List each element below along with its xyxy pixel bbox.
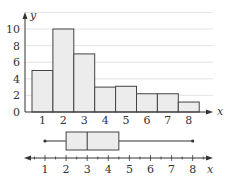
histogram-bar [116, 86, 137, 112]
chart-canvas: y x 0246810 12345678 x 12345678 [0, 0, 236, 185]
histogram-bar [157, 94, 178, 112]
y-tick-labels: 0246810 [6, 23, 20, 119]
histogram-bars [32, 29, 199, 112]
x-tick-label: 5 [123, 114, 130, 127]
y-axis-label: y [29, 9, 37, 22]
number-line-tick-label: 7 [168, 163, 175, 176]
histogram-bar [32, 71, 53, 113]
number-line-x-label: x [207, 163, 214, 176]
y-tick-label: 6 [13, 56, 20, 69]
x-tick-label: 8 [185, 114, 192, 127]
number-line-tick-label: 8 [189, 163, 196, 176]
histogram-bar [74, 54, 95, 112]
y-tick-label: 4 [13, 73, 20, 86]
histogram-bar [95, 87, 116, 112]
y-tick-label: 8 [13, 40, 20, 53]
x-tick-label: 1 [39, 114, 46, 127]
x-tick-label: 7 [164, 114, 171, 127]
histogram-bar [178, 102, 199, 112]
histogram-bar [53, 29, 74, 112]
number-line-right-arrow-icon [206, 156, 213, 161]
box-plot [43, 132, 194, 150]
iqr-box [66, 132, 119, 150]
y-tick-label: 10 [6, 23, 20, 36]
x-axis-arrow-icon [206, 110, 213, 115]
histogram-bar [137, 94, 158, 112]
x-tick-label: 6 [143, 114, 150, 127]
y-tick-label: 0 [13, 106, 20, 119]
number-line-tick-label: 1 [42, 163, 49, 176]
x-tick-labels: 12345678 [39, 114, 192, 127]
number-line-tick-label: 3 [84, 163, 91, 176]
number-line-tick-label: 4 [105, 163, 112, 176]
number-line-tick-label: 6 [147, 163, 154, 176]
x-tick-label: 2 [60, 114, 67, 127]
x-tick-label: 3 [81, 114, 88, 127]
y-axis-arrow-icon [23, 12, 28, 19]
max-point [191, 139, 194, 142]
y-tick-label: 2 [13, 89, 20, 102]
x-axis-label: x [217, 105, 224, 118]
number-line-left-arrow-icon [24, 156, 31, 161]
x-tick-label: 4 [102, 114, 109, 127]
min-point [43, 139, 46, 142]
number-line-tick-label: 5 [126, 163, 133, 176]
number-line-tick-label: 2 [63, 163, 70, 176]
